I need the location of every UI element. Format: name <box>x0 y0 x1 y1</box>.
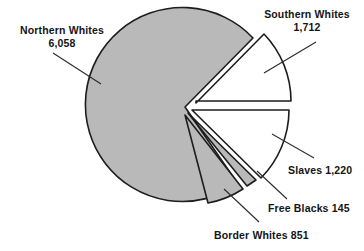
pie-label-northern-whites: Northern Whites 6,058 <box>6 24 118 50</box>
pie-label-southern-whites-value: 1,712 <box>252 21 362 34</box>
leader-line-border-whites <box>224 189 259 222</box>
pie-chart: Northern Whites 6,058 Southern Whites 1,… <box>0 0 364 251</box>
pie-label-free-blacks-text: Free Blacks 145 <box>268 202 350 214</box>
pie-label-border-whites: Border Whites 851 <box>214 229 309 242</box>
pie-label-free-blacks: Free Blacks 145 <box>268 202 350 215</box>
pie-label-northern-whites-name: Northern Whites <box>20 24 104 36</box>
pie-label-border-whites-text: Border Whites 851 <box>214 229 309 241</box>
leader-line-free-blacks <box>257 171 287 199</box>
pie-label-slaves-text: Slaves 1,220 <box>288 164 352 176</box>
pie-label-southern-whites-name: Southern Whites <box>264 8 350 20</box>
pie-label-northern-whites-value: 6,058 <box>6 37 118 50</box>
pie-label-southern-whites: Southern Whites 1,712 <box>252 8 362 34</box>
pie-label-slaves: Slaves 1,220 <box>288 164 352 177</box>
